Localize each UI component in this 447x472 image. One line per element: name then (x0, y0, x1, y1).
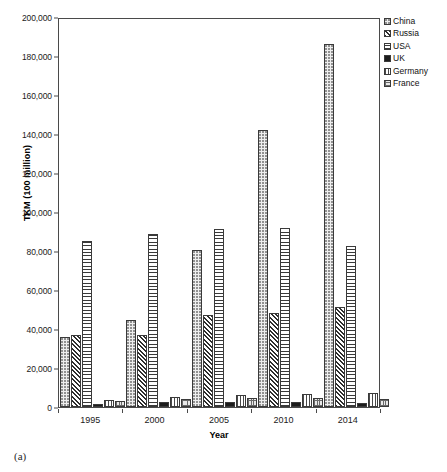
x-axis-ticks: 19952000200520102014 (58, 409, 380, 429)
bar-france-2014 (379, 399, 389, 407)
x-tick-label: 2014 (316, 409, 380, 429)
legend-item-uk[interactable]: UK (384, 54, 428, 63)
legend-swatch-icon (384, 30, 391, 37)
y-tick-label: 80,000 (27, 247, 52, 257)
legend-item-usa[interactable]: USA (384, 42, 428, 51)
bar-usa-2014 (346, 246, 356, 407)
bar-uk-2014 (357, 403, 367, 407)
legend-item-label: China (393, 17, 415, 26)
y-tick-label: 160,000 (22, 91, 52, 101)
bar-china-2000 (126, 320, 136, 407)
legend-item-label: Germany (393, 67, 428, 76)
x-tick-label: 2000 (122, 409, 186, 429)
x-tick-mark (58, 409, 59, 413)
y-tick-label: 140,000 (22, 130, 52, 140)
y-tick-label: 0 (47, 403, 52, 413)
legend-item-china[interactable]: China (384, 17, 428, 26)
x-tick-mark (251, 409, 252, 413)
x-tick-mark (122, 409, 123, 413)
bar-france-2010 (313, 398, 323, 407)
bar-china-2010 (258, 130, 268, 407)
bar-russia-2000 (137, 335, 147, 407)
bar-france-1995 (115, 401, 125, 407)
bar-germany-1995 (104, 400, 114, 407)
plot-area (58, 18, 380, 408)
legend-item-label: France (393, 79, 419, 88)
y-tick-label: 180,000 (22, 52, 52, 62)
x-axis-title: Year (58, 430, 380, 440)
bar-france-2000 (181, 399, 191, 407)
legend-swatch-icon (384, 18, 391, 25)
bar-group (59, 19, 125, 407)
bar-germany-2014 (368, 393, 378, 407)
bars-layer (59, 19, 379, 407)
bar-usa-2010 (280, 228, 290, 407)
bar-group (125, 19, 191, 407)
bar-germany-2000 (170, 397, 180, 407)
bar-group (191, 19, 257, 407)
x-tick-label: 2010 (251, 409, 315, 429)
x-tick-mark (316, 409, 317, 413)
legend-swatch-icon (384, 43, 391, 50)
bar-germany-2010 (302, 394, 312, 407)
bar-france-2005 (247, 398, 257, 407)
bar-germany-2005 (236, 395, 246, 407)
figure-caption: (a) (14, 450, 26, 462)
legend-item-russia[interactable]: Russia (384, 29, 428, 38)
y-tick-label: 120,000 (22, 169, 52, 179)
bar-china-2014 (324, 44, 334, 407)
y-tick-label: 60,000 (27, 286, 52, 296)
bar-group (323, 19, 389, 407)
bar-russia-2005 (203, 315, 213, 407)
legend-item-germany[interactable]: Germany (384, 67, 428, 76)
figure-container: TKM (100 million) 020,00040,00060,00080,… (0, 0, 447, 472)
legend-item-label: USA (393, 42, 410, 51)
legend-item-label: UK (393, 54, 405, 63)
bar-russia-2014 (335, 307, 345, 407)
bar-uk-2000 (159, 402, 169, 407)
legend-item-france[interactable]: France (384, 79, 428, 88)
bar-uk-2010 (291, 402, 301, 407)
legend-item-label: Russia (393, 29, 419, 38)
bar-russia-2010 (269, 313, 279, 407)
bar-china-2005 (192, 250, 202, 407)
bar-china-1995 (60, 337, 70, 407)
bar-usa-2005 (214, 229, 224, 407)
x-tick-mark (380, 409, 381, 413)
bar-usa-1995 (82, 241, 92, 407)
x-tick-label: 1995 (58, 409, 122, 429)
bar-uk-2005 (225, 402, 235, 407)
y-tick-label: 40,000 (27, 325, 52, 335)
legend-swatch-icon (384, 55, 391, 62)
bar-russia-1995 (71, 335, 81, 407)
y-axis-ticks: 020,00040,00060,00080,000100,000120,0001… (0, 18, 58, 408)
x-tick-mark (187, 409, 188, 413)
y-tick-label: 20,000 (27, 364, 52, 374)
y-tick-label: 200,000 (22, 13, 52, 23)
bar-group (257, 19, 323, 407)
bar-usa-2000 (148, 234, 158, 407)
legend-swatch-icon (384, 80, 391, 87)
x-tick-label: 2005 (187, 409, 251, 429)
chart-legend: ChinaRussiaUSAUKGermanyFrance (384, 17, 428, 88)
legend-swatch-icon (384, 68, 391, 75)
bar-uk-1995 (93, 404, 103, 407)
y-tick-label: 100,000 (22, 208, 52, 218)
